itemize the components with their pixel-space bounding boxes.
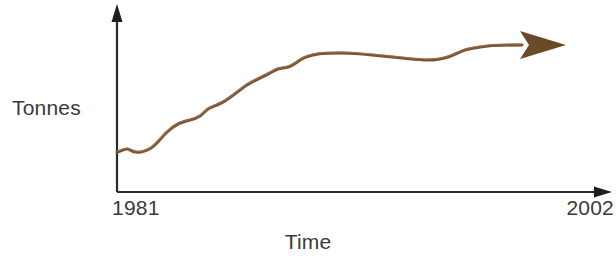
y-axis-label: Tonnes xyxy=(12,97,81,118)
trend-line xyxy=(117,45,522,152)
curve-arrowhead-icon xyxy=(520,31,566,59)
x-axis xyxy=(117,187,612,198)
chart-figure: Tonnes 1981 2002 Time xyxy=(0,0,616,261)
x-axis-tick-start: 1981 xyxy=(112,197,160,218)
arrow-up-icon xyxy=(112,4,123,22)
y-axis xyxy=(112,4,123,192)
trend-line-highlight xyxy=(117,44,522,151)
line-chart-canvas xyxy=(0,0,616,261)
x-axis-label: Time xyxy=(0,231,616,252)
x-axis-tick-end: 2002 xyxy=(566,197,614,218)
data-series-curve xyxy=(117,31,566,152)
